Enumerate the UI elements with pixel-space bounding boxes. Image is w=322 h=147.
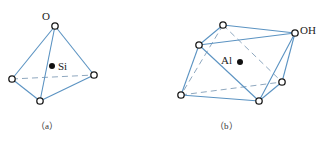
edge	[223, 25, 295, 33]
hydroxyl-atom-icon	[256, 98, 262, 104]
hydroxyl-atom-icon	[196, 42, 202, 48]
hidden-edge	[12, 75, 94, 79]
hidden-edge	[181, 82, 282, 95]
al-atom-icon	[237, 59, 243, 65]
edge	[282, 33, 295, 82]
figure-canvas: O Si （a） OH Al （b）	[0, 0, 322, 147]
edge	[12, 79, 40, 101]
si-atom-icon	[49, 63, 55, 69]
edge	[181, 95, 259, 101]
edge	[259, 33, 295, 101]
edge	[12, 26, 55, 79]
edge	[199, 33, 295, 45]
hydroxyl-atom-icon	[220, 22, 226, 28]
panel-b-octahedron: OH Al （b）	[178, 22, 316, 131]
vertex-label-oh: OH	[300, 24, 316, 36]
vertex-label-o: O	[42, 10, 50, 22]
hydroxyl-atom-icon	[279, 79, 285, 85]
center-label-si: Si	[58, 60, 67, 72]
hydroxyl-atom-icon	[292, 30, 298, 36]
caption-a: （a）	[36, 121, 58, 131]
hydroxyl-atom-icon	[178, 92, 184, 98]
edge	[40, 75, 94, 101]
oxygen-atom-icon	[52, 23, 58, 29]
oxygen-atom-icon	[9, 76, 15, 82]
center-label-al: Al	[221, 54, 232, 66]
hidden-edge	[181, 25, 223, 95]
panel-a-tetrahedron: O Si （a）	[9, 10, 97, 131]
oxygen-atom-icon	[91, 72, 97, 78]
caption-b: （b）	[215, 121, 238, 131]
oxygen-atom-icon	[37, 98, 43, 104]
